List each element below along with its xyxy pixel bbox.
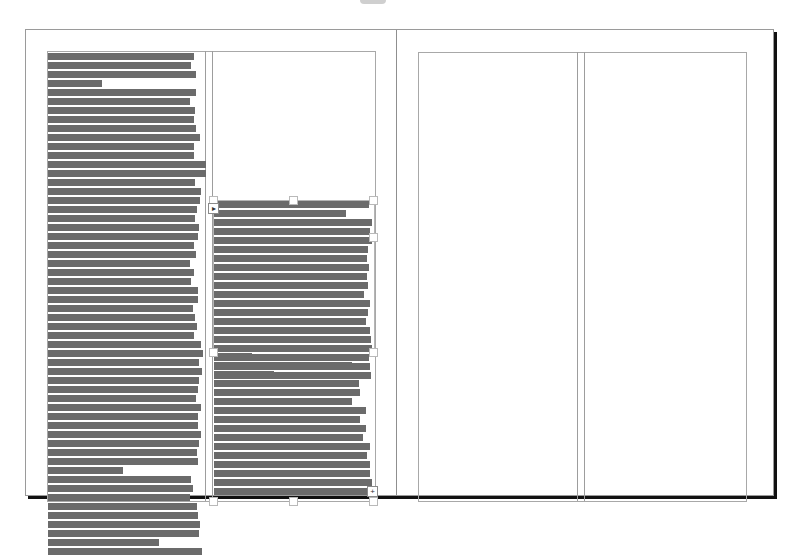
frame2-handle-bottom-middle[interactable] <box>289 497 298 506</box>
greeked-text-line <box>48 350 203 357</box>
frame1-handle-middle-right[interactable] <box>369 233 378 242</box>
greeked-text-line <box>48 341 201 348</box>
frame1-handle-top-right[interactable] <box>369 196 378 205</box>
greeked-text-line <box>48 62 191 69</box>
greeked-text-line <box>48 233 198 240</box>
greeked-text-line <box>48 548 202 555</box>
greeked-text-line <box>48 269 194 276</box>
greeked-text-line <box>48 512 198 519</box>
greeked-text-line <box>214 461 370 468</box>
greeked-text-line <box>48 305 193 312</box>
window-edge-fragment <box>360 0 386 4</box>
greeked-text-line <box>48 179 195 186</box>
greeked-text-line <box>214 452 367 459</box>
greeked-text-line <box>48 530 199 537</box>
greeked-text-line <box>48 485 193 492</box>
greeked-text-line <box>48 314 195 321</box>
greeked-text-line <box>48 242 194 249</box>
frame2-handle-bottom-right[interactable] <box>369 497 378 506</box>
greeked-text-line <box>214 443 370 450</box>
greeked-text-line <box>214 264 369 271</box>
greeked-text-line <box>48 440 199 447</box>
greeked-text-line <box>214 353 252 360</box>
greeked-text-line <box>48 143 194 150</box>
greeked-text-line <box>214 219 372 226</box>
greeked-text-line <box>214 309 368 316</box>
greeked-text-line <box>48 80 102 87</box>
greeked-text-line <box>214 470 370 477</box>
greeked-text-line <box>48 359 199 366</box>
greeked-text-line <box>214 416 360 423</box>
greeked-text-line <box>214 300 370 307</box>
greeked-text-line <box>48 53 194 60</box>
overset-text-plus-icon[interactable]: + <box>367 486 378 497</box>
greeked-text-line <box>48 98 190 105</box>
text-frame-right-column-1[interactable] <box>214 201 372 349</box>
greeked-text-line <box>48 449 197 456</box>
greeked-text-line <box>48 467 123 474</box>
greeked-text-line <box>48 503 197 510</box>
greeked-text-line <box>48 170 206 177</box>
greeked-text-line <box>48 494 190 501</box>
greeked-text-line <box>48 161 206 168</box>
greeked-text-line <box>48 296 198 303</box>
greeked-text-line <box>48 287 198 294</box>
greeked-text-line <box>48 431 201 438</box>
greeked-text-line <box>48 332 194 339</box>
greeked-text-line <box>48 107 195 114</box>
frame2-handle-top-left[interactable] <box>209 348 218 357</box>
greeked-text-line <box>48 323 197 330</box>
greeked-text-line <box>48 278 191 285</box>
greeked-text-line <box>214 425 366 432</box>
frame1-in-port-icon[interactable]: ▸ <box>208 203 219 214</box>
greeked-text-line <box>48 422 198 429</box>
greeked-text-line <box>48 197 200 204</box>
greeked-text-line <box>214 318 366 325</box>
right-page-column-guide-2 <box>584 52 585 501</box>
greeked-text-line <box>48 458 198 465</box>
greeked-text-line <box>48 116 194 123</box>
greeked-text-line <box>48 89 196 96</box>
greeked-text-line <box>48 188 201 195</box>
greeked-text-line <box>214 434 363 441</box>
greeked-text-line <box>214 407 366 414</box>
greeked-text-line <box>214 398 352 405</box>
greeked-text-line <box>214 210 346 217</box>
greeked-text-line <box>48 413 198 420</box>
greeked-text-line <box>48 377 199 384</box>
greeked-text-line <box>48 404 201 411</box>
greeked-text-line <box>48 224 199 231</box>
right-page-margin-guide <box>418 52 747 502</box>
greeked-text-line <box>48 206 197 213</box>
greeked-text-line <box>214 327 370 334</box>
greeked-text-line <box>214 380 359 387</box>
greeked-text-line <box>48 260 190 267</box>
greeked-text-line <box>214 345 372 352</box>
greeked-text-line <box>48 476 191 483</box>
greeked-text-line <box>214 389 360 396</box>
greeked-text-line <box>48 125 196 132</box>
frame2-handle-top-right[interactable] <box>369 348 378 357</box>
greeked-text-line <box>48 368 202 375</box>
frame1-handle-top-middle[interactable] <box>289 196 298 205</box>
greeked-text-line <box>214 255 367 262</box>
greeked-text-line <box>48 134 200 141</box>
greeked-text-line <box>214 228 370 235</box>
greeked-text-line <box>214 371 274 378</box>
spread-spine <box>396 30 397 495</box>
greeked-text-line <box>48 215 195 222</box>
greeked-text-line <box>48 539 159 546</box>
greeked-text-line <box>214 488 371 495</box>
page-spread: ▸ + <box>25 29 774 496</box>
text-frame-left-column[interactable] <box>48 52 206 500</box>
text-frame-right-column-2[interactable] <box>214 353 372 501</box>
greeked-text-line <box>48 71 196 78</box>
greeked-text-line <box>214 246 368 253</box>
greeked-text-line <box>48 521 200 528</box>
frame2-handle-bottom-left[interactable] <box>209 497 218 506</box>
right-page-column-guide-1 <box>577 52 578 501</box>
greeked-text-line <box>214 282 368 289</box>
greeked-text-line <box>48 152 194 159</box>
greeked-text-line <box>214 336 371 343</box>
greeked-text-line <box>214 291 364 298</box>
